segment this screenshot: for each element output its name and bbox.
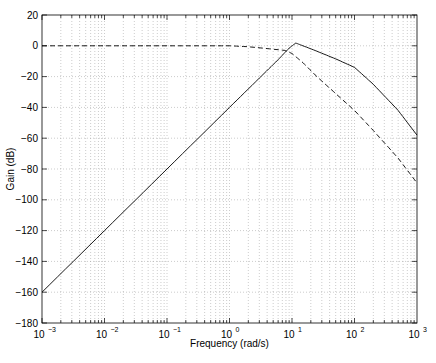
y-tick-label: −100 — [15, 194, 38, 205]
y-tick-label: −180 — [15, 318, 38, 329]
y-tick-label: −20 — [21, 71, 38, 82]
y-tick-label: 20 — [27, 10, 39, 21]
y-tick-label: −40 — [21, 102, 38, 113]
y-tick-label: −80 — [21, 164, 38, 175]
x-tick-label: 10 — [96, 329, 108, 340]
x-tick-label: 10 — [408, 329, 420, 340]
x-tick-exponent: 1 — [298, 326, 302, 333]
x-tick-label: 10 — [283, 329, 295, 340]
solid-gain-line — [42, 43, 417, 292]
y-axis-label: Gain (dB) — [5, 148, 16, 191]
y-tick-label: −120 — [15, 225, 38, 236]
data-series — [42, 43, 417, 292]
x-tick-exponent: 2 — [361, 326, 365, 333]
y-tick-label: −140 — [15, 256, 38, 267]
x-tick-exponent: −3 — [48, 326, 56, 333]
x-tick-label: 10 — [158, 329, 170, 340]
y-tick-label: 0 — [32, 40, 38, 51]
x-tick-label: 10 — [346, 329, 358, 340]
y-tick-label: −60 — [21, 133, 38, 144]
x-tick-exponent: −1 — [173, 326, 181, 333]
axis-ticks: 200−20−40−60−80−100−120−140−160−18010−31… — [15, 10, 427, 341]
x-tick-exponent: 0 — [236, 326, 240, 333]
x-tick-label: 10 — [33, 329, 45, 340]
grid-lines — [42, 15, 417, 323]
y-tick-label: −160 — [15, 287, 38, 298]
x-tick-exponent: −2 — [111, 326, 119, 333]
x-tick-exponent: 3 — [423, 326, 427, 333]
x-axis-label: Frequency (rad/s) — [190, 338, 269, 349]
gain-plot: 200−20−40−60−80−100−120−140−160−18010−31… — [0, 0, 436, 363]
